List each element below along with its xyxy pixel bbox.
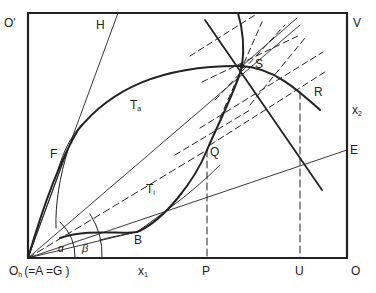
dashed-6: [250, 38, 305, 105]
label-R: R: [314, 86, 323, 98]
curve-Ta-sub: a: [137, 105, 141, 112]
axis-x1-sub: 1: [144, 271, 148, 278]
origin-sub: h: [18, 271, 22, 278]
label-S: S: [255, 58, 263, 70]
axis-x2-sub: 2: [358, 110, 362, 117]
label-Q: Q: [210, 146, 219, 158]
label-F: F: [50, 148, 57, 160]
label-curve-Ti: Ti: [146, 183, 155, 196]
label-B: B: [134, 234, 142, 246]
label-U: U: [295, 265, 304, 277]
origin-note: (=A =G ): [24, 264, 69, 278]
curve-Ta: [28, 66, 320, 258]
ray-dashed-OQ: [28, 150, 207, 258]
label-origin-bottom-left: Oh(=A =G ): [9, 265, 70, 278]
label-beta: β: [82, 243, 88, 254]
curve-Ti-sub: i: [153, 189, 155, 196]
label-P: P: [202, 265, 210, 277]
label-alpha: α: [58, 244, 64, 254]
label-V: V: [353, 17, 361, 29]
label-H: H: [96, 19, 105, 31]
dashed-1: [190, 15, 255, 56]
line-through-S: [205, 20, 322, 190]
label-origin-top-left: O': [4, 17, 16, 29]
label-origin-bottom-right: O: [351, 265, 360, 277]
dashed-3: [215, 25, 285, 100]
origin-letter: O: [9, 264, 18, 278]
point-S-dot: [240, 64, 244, 68]
label-axis-x1: x1: [138, 265, 148, 278]
curve-Ti: [60, 13, 243, 238]
label-axis-x2: x2: [352, 104, 362, 117]
ray-OE: [28, 150, 347, 258]
label-curve-Ta: Ta: [130, 99, 141, 112]
label-E: E: [350, 144, 358, 156]
